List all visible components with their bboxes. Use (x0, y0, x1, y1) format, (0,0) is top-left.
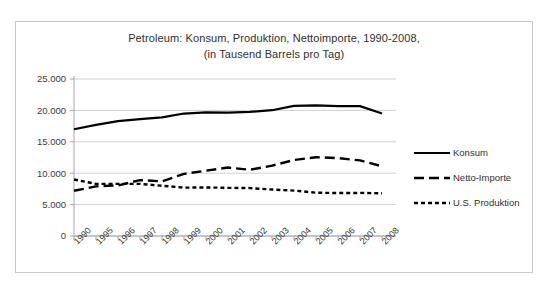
y-tick-label: 10.000 (37, 168, 66, 179)
series-line-konsum (74, 105, 382, 129)
legend-label-konsum: Konsum (453, 147, 488, 158)
chart-plot: 05.00010.00015.00020.00025.000 199019951… (16, 22, 534, 274)
chart-frame: Petroleum: Konsum, Produktion, Nettoimpo… (15, 21, 533, 273)
legend-label-u-s-produktion: U.S. Produktion (453, 197, 520, 208)
series-line-u-s-produktion (74, 179, 382, 193)
chart-legend: KonsumNetto-ImporteU.S. Produktion (414, 147, 520, 208)
x-tick-label: 2008 (380, 225, 401, 246)
y-tick-label: 15.000 (37, 136, 66, 147)
gridlines-group (74, 79, 396, 236)
x-axis-ticks-group: 1990199519961997199819992000200120022003… (72, 225, 401, 246)
y-tick-label: 20.000 (37, 105, 66, 116)
y-axis-ticks-group: 05.00010.00015.00020.00025.000 (37, 73, 74, 241)
legend-label-netto-importe: Netto-Importe (453, 172, 511, 183)
y-tick-label: 25.000 (37, 73, 66, 84)
data-series-group (74, 105, 382, 193)
y-tick-label: 0 (61, 230, 66, 241)
y-tick-label: 5.000 (42, 199, 66, 210)
series-line-netto-importe (74, 157, 382, 191)
